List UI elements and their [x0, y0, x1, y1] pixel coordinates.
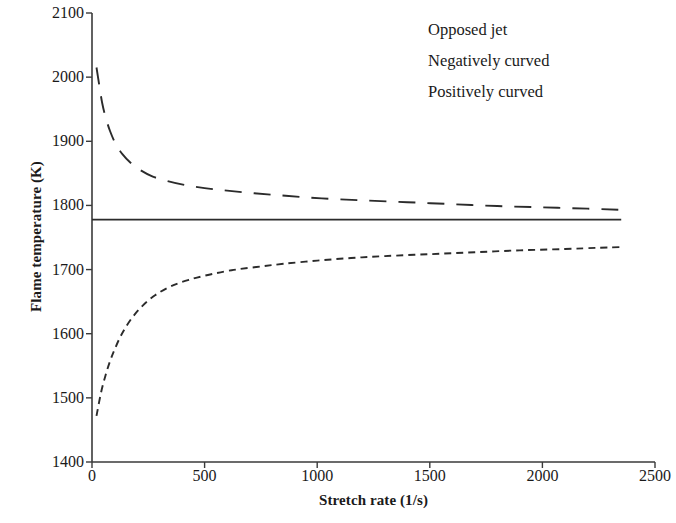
chart-legend: Opposed jet Negatively curved Positively…: [358, 18, 648, 111]
data-curves: [92, 68, 621, 416]
legend-item-negatively-curved: Negatively curved: [358, 49, 648, 80]
long-dashed-line-key: [358, 93, 418, 95]
solid-line-key: [358, 31, 418, 33]
short-dashed-line-key: [358, 62, 418, 64]
legend-item-positively-curved: Positively curved: [358, 80, 648, 111]
curve-negatively-curved: [97, 247, 622, 416]
legend-label-opposed-jet: Opposed jet: [428, 20, 507, 40]
legend-label-negatively-curved: Negatively curved: [428, 51, 549, 71]
legend-item-opposed-jet: Opposed jet: [358, 18, 648, 49]
legend-label-positively-curved: Positively curved: [428, 82, 543, 102]
